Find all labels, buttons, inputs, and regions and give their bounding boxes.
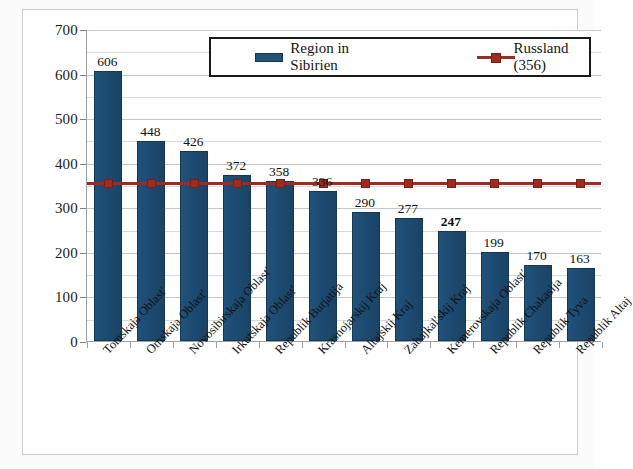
reference-line-marker: [404, 179, 413, 188]
chart-legend: Region in Sibirien Russland (356): [209, 37, 591, 77]
y-axis-tick-label: 600: [38, 68, 78, 83]
bar-value-label: 336: [294, 175, 350, 189]
x-axis-tick-mark: [602, 342, 603, 348]
legend-label-region-in-sibirien: Region in Sibirien: [290, 40, 381, 74]
bar-value-label: 277: [380, 202, 436, 216]
bar-value-label: 163: [552, 252, 608, 266]
y-axis-tick-label: 700: [38, 23, 78, 38]
reference-line-marker: [361, 179, 370, 188]
y-axis-tick-label: 300: [38, 201, 78, 216]
gridline-major: [87, 30, 601, 31]
legend-item-russland: Russland (356): [477, 40, 589, 74]
y-axis-tick-label: 500: [38, 112, 78, 127]
reference-line-marker: [533, 179, 542, 188]
legend-bar-swatch-icon: [255, 53, 283, 62]
reference-line-marker: [490, 179, 499, 188]
x-axis-category-labels: Tomskaja Oblast′Omskaja Oblast′Novosibir…: [86, 342, 601, 469]
bar-value-label: 247: [423, 215, 479, 229]
legend-item-region-in-sibirien: Region in Sibirien: [255, 40, 381, 74]
reference-line-marker: [447, 179, 456, 188]
y-axis-tick-mark: [80, 30, 86, 31]
legend-line-swatch-icon: [477, 52, 508, 63]
reference-line-marker: [233, 179, 242, 188]
y-axis-tick-mark: [80, 208, 86, 209]
y-axis-tick-mark: [80, 75, 86, 76]
reference-line-marker: [276, 179, 285, 188]
y-axis-tick-label: 100: [38, 290, 78, 305]
chart-outer-frame: 7006005004003002001000 60644842637235833…: [22, 9, 578, 455]
reference-line-marker: [576, 179, 585, 188]
gridline-major: [87, 119, 601, 120]
bar-value-label: 426: [165, 135, 221, 149]
reference-line-marker: [190, 179, 199, 188]
y-axis-tick-mark: [80, 253, 86, 254]
y-axis-tick-label: 400: [38, 157, 78, 172]
y-axis-tick-mark: [80, 164, 86, 165]
gridline-minor: [87, 97, 601, 98]
reference-line-marker: [147, 179, 156, 188]
y-axis-tick-mark: [80, 119, 86, 120]
bar-value-label: 606: [79, 55, 135, 69]
y-axis-tick-label: 200: [38, 246, 78, 261]
bar: [94, 71, 122, 341]
bar-value-label: 199: [466, 236, 522, 250]
legend-label-russland: Russland (356): [513, 40, 589, 74]
y-axis-tick-label: 0: [38, 335, 78, 350]
y-axis-tick-mark: [80, 297, 86, 298]
reference-line-marker: [104, 179, 113, 188]
